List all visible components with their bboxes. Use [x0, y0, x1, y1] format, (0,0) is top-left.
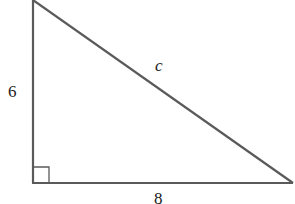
- horizontal-leg-label: 8: [154, 189, 163, 204]
- vertical-leg-label: 6: [8, 82, 17, 101]
- right-angle-marker: [33, 167, 49, 183]
- hypotenuse-label: c: [155, 56, 163, 75]
- hypotenuse: [33, 0, 293, 183]
- right-triangle-diagram: 6 8 c: [0, 0, 295, 204]
